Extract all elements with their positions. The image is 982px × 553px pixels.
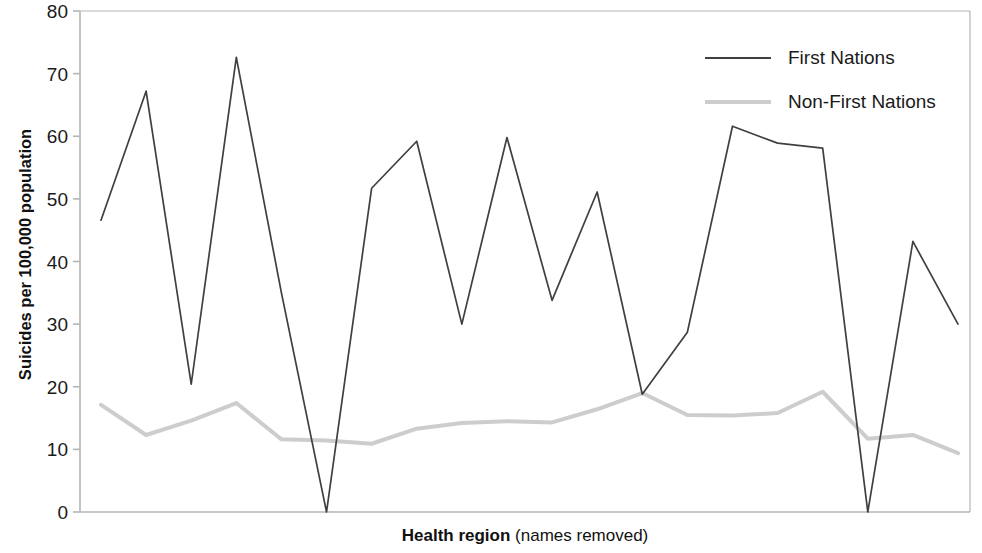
y-axis-tick-label: 70	[28, 65, 68, 84]
legend-label: First Nations	[788, 47, 895, 69]
legend-swatch-line-icon	[705, 100, 771, 104]
legend-swatch-line-icon	[705, 57, 771, 59]
y-axis-tick-label: 10	[28, 440, 68, 459]
x-axis-title: Health region (names removed)	[80, 526, 970, 546]
series-line-first-nations	[101, 57, 958, 512]
x-axis-title-regular: (names removed)	[510, 526, 648, 545]
y-axis-tick-label: 80	[28, 2, 68, 21]
y-axis-title: Suicides per 100,000 population	[16, 90, 35, 420]
legend-item[interactable]: First Nations	[705, 36, 970, 80]
y-axis-tick-label: 0	[28, 503, 68, 522]
x-axis-title-bold: Health region	[402, 526, 511, 545]
series-line-non-first-nations	[101, 392, 958, 453]
legend-label: Non-First Nations	[788, 91, 936, 113]
chart-figure: 01020304050607080 Suicides per 100,000 p…	[0, 0, 982, 553]
legend-item[interactable]: Non-First Nations	[705, 80, 970, 124]
chart-legend: First NationsNon-First Nations	[705, 36, 970, 124]
axis-ticks	[73, 11, 80, 512]
data-series-lines	[101, 57, 958, 512]
